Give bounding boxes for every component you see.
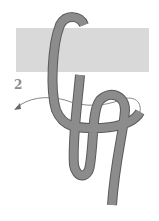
knot-diagram: 2: [0, 0, 159, 221]
step-number: 2: [14, 78, 22, 92]
arrowhead-icon: [14, 103, 21, 110]
knot-illustration: [0, 0, 159, 221]
horizontal-bar: [16, 28, 149, 72]
